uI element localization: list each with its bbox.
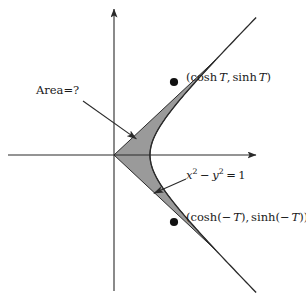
equals-operator: = xyxy=(226,168,236,182)
variable-t: T xyxy=(219,70,227,84)
paren-close: ) xyxy=(266,70,271,84)
equation-rhs: 1 xyxy=(238,168,245,182)
comma-separator: , xyxy=(245,210,249,224)
label-point-cosh-t: (coshT,sinhT) xyxy=(186,72,271,84)
minus-sign-2: − xyxy=(280,210,290,224)
label-area-question: Area=? xyxy=(36,85,79,97)
label-curve-equation: x2−y2=1 xyxy=(186,170,246,182)
variable-t: T xyxy=(233,210,241,224)
x-exponent: 2 xyxy=(193,167,198,176)
comma-separator: , xyxy=(227,70,231,84)
area-word: Area xyxy=(36,83,63,97)
y-exponent: 2 xyxy=(219,167,224,176)
label-point-cosh-minus-t: (cosh(−T),sinh(−T)) xyxy=(186,212,306,224)
cosh-operator: cosh xyxy=(191,70,218,84)
point-marker-cosh-t xyxy=(170,78,178,86)
hyperbola-area-figure: (coshT,sinhT) (cosh(−T),sinh(−T)) x2−y2=… xyxy=(0,0,306,297)
point-marker-cosh-minus-t xyxy=(170,218,178,226)
figure-canvas xyxy=(0,0,306,297)
minus-operator: − xyxy=(200,168,210,182)
cosh-operator: cosh xyxy=(191,210,218,224)
area-equals: = xyxy=(63,83,73,97)
sinh-operator: sinh xyxy=(232,70,256,84)
area-question-mark: ? xyxy=(73,83,79,97)
sinh-operator: sinh xyxy=(251,210,275,224)
paren-close: ) xyxy=(304,210,306,224)
minus-sign: − xyxy=(222,210,232,224)
area-leader-line xyxy=(83,101,136,139)
